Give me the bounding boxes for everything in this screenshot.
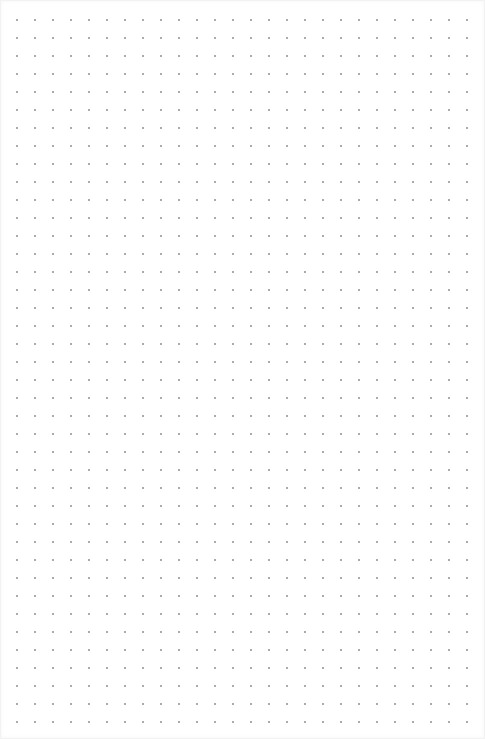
notebook-page bbox=[0, 0, 485, 739]
dot-grid-pattern bbox=[8, 11, 476, 731]
